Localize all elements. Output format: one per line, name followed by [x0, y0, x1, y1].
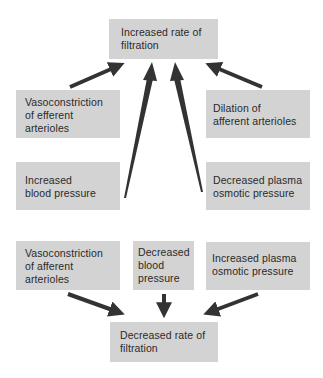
arrow-dilation-to-top	[212, 66, 262, 87]
box-line: of afferent	[25, 260, 111, 273]
box-dilation-afferent: Dilation of afferent arterioles	[206, 90, 310, 138]
box-line: arterioles	[25, 273, 111, 286]
box-line: Decreased plasma	[213, 174, 303, 187]
box-line: arterioles	[25, 122, 111, 135]
box-line: blood	[138, 259, 189, 272]
box-line: Increased rate of	[121, 26, 206, 39]
box-line: Increased	[25, 174, 111, 187]
arrow-decreased-osmotic-head	[170, 62, 184, 81]
box-line: afferent arterioles	[213, 115, 303, 128]
box-increased-filtration: Increased rate of filtration	[109, 19, 218, 59]
box-line: osmotic pressure	[213, 187, 303, 200]
box-line: Vasoconstriction	[25, 96, 111, 109]
box-vasoconstriction-efferent: Vasoconstriction of efferent arterioles	[16, 90, 120, 138]
box-decreased-filtration: Decreased rate of filtration	[110, 322, 218, 362]
arrow-vaso-afferent-to-bottom	[68, 294, 118, 312]
box-line: filtration	[121, 39, 206, 52]
box-increased-plasma-osmotic: Increased plasma osmotic pressure	[206, 242, 310, 290]
box-line: Increased plasma	[212, 252, 304, 265]
box-line: blood pressure	[25, 187, 111, 200]
arrow-increased-osmotic-to-bottom	[210, 294, 258, 312]
box-line: osmotic pressure	[212, 265, 304, 278]
box-line: Decreased rate of	[120, 329, 208, 342]
box-line: Dilation of	[213, 102, 303, 115]
box-line: of efferent	[25, 109, 111, 122]
arrow-increased-bp-head	[143, 62, 157, 81]
box-vasoconstriction-afferent: Vasoconstriction of afferent arterioles	[16, 241, 120, 290]
box-line: filtration	[120, 342, 208, 355]
box-line: Decreased	[138, 246, 189, 259]
box-decreased-blood-pressure: Decreased blood pressure	[133, 241, 194, 290]
arrow-increased-bp-to-top	[124, 78, 153, 198]
arrow-vaso-efferent-to-top	[70, 66, 118, 87]
arrow-decreased-osmotic-to-top	[174, 78, 203, 192]
box-line: pressure	[138, 272, 189, 285]
box-increased-blood-pressure: Increased blood pressure	[16, 162, 120, 210]
box-decreased-plasma-osmotic: Decreased plasma osmotic pressure	[206, 162, 310, 210]
box-line: Vasoconstriction	[25, 247, 111, 260]
